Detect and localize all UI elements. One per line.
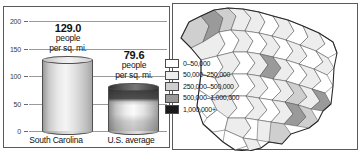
legend-swatch-250000-500000	[165, 82, 179, 91]
county-beaufort-coast	[269, 122, 291, 144]
bar-chart-panel: 200 150 100 50 0 129.0 people per sq. m	[3, 6, 170, 148]
map-legend: 0–50,000 50,000–250,000 250,000–500,000 …	[165, 58, 257, 116]
population-density-figure: 200 150 100 50 0 129.0 people per sq. m	[0, 0, 361, 153]
legend-swatch-50000-250000	[165, 71, 179, 80]
legend-row-1: 50,000–250,000	[165, 70, 257, 82]
legend-label-500000-1000000: 500,000–1,000,000	[183, 94, 239, 102]
category-label-south-carolina: South Carolina	[16, 135, 96, 145]
tick-200	[24, 21, 28, 22]
legend-label-0-50000: 0–50,000	[183, 60, 210, 68]
y-axis-label-150: 150	[1, 46, 21, 53]
legend-swatch-1000000-plus	[165, 105, 179, 114]
unit-line2-us-average: per sq. mi.	[101, 71, 167, 81]
bar-south-carolina	[42, 56, 93, 135]
legend-swatch-0-50000	[165, 59, 179, 68]
legend-swatch-500000-1000000	[165, 94, 179, 103]
legend-row-4: 1,000,000+	[165, 104, 257, 116]
bar-us-body	[108, 87, 159, 131]
legend-row-0: 0–50,000	[165, 58, 257, 70]
unit-line2-south-carolina: per sq. mi.	[35, 44, 101, 54]
value-callout-south-carolina: 129.0 people per sq. mi.	[35, 22, 101, 53]
legend-label-1000000-plus: 1,000,000+	[183, 106, 216, 114]
y-axis-label-100: 100	[1, 73, 21, 80]
tick-150	[24, 49, 28, 50]
legend-row-3: 500,000–1,000,000	[165, 93, 257, 105]
y-axis-label-0: 0	[1, 128, 21, 135]
bar-us-average	[108, 83, 159, 135]
tick-0	[24, 131, 28, 132]
tick-50	[24, 104, 28, 105]
map-panel: 0–50,000 50,000–250,000 250,000–500,000 …	[172, 3, 358, 150]
legend-label-50000-250000: 50,000–250,000	[183, 71, 230, 79]
value-callout-us-average: 79.6 people per sq. mi.	[101, 49, 167, 80]
bar-sc-body	[42, 60, 93, 131]
category-label-us-average: U.S. average	[96, 135, 166, 145]
bar-sc-top	[42, 56, 93, 64]
legend-row-2: 250,000–500,000	[165, 81, 257, 93]
y-axis-label-200: 200	[1, 18, 21, 25]
tick-100	[24, 76, 28, 77]
legend-label-250000-500000: 250,000–500,000	[183, 83, 234, 91]
chart-plot-area: 200 150 100 50 0 129.0 people per sq. m	[29, 21, 167, 131]
y-axis-label-50: 50	[1, 101, 21, 108]
